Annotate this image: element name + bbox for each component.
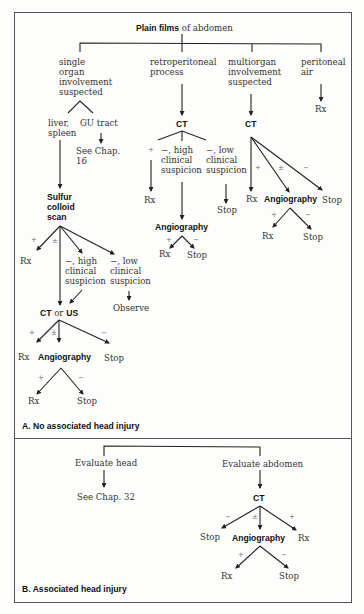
node-evaluate-abdomen: Evaluate abdomen: [222, 459, 303, 469]
line: suspected: [228, 77, 281, 87]
node-high-suspicion: −, high clinical suspicion: [161, 145, 202, 175]
node-stop: Stop: [77, 396, 97, 406]
panel-b-caption: B. Associated head injury: [22, 584, 127, 594]
node-stop: Stop: [104, 353, 124, 363]
line: clinical: [206, 155, 247, 165]
sign-minus: −: [78, 374, 84, 382]
connector-lines: [0, 0, 364, 614]
line: scan: [47, 212, 75, 222]
node-sulfur-colloid-scan: Sulfur colloid scan: [47, 192, 75, 222]
node-rx: Rx: [20, 256, 31, 266]
node-rx: Rx: [298, 533, 309, 543]
node-ct: CT: [245, 119, 256, 129]
sign-minus: −: [303, 164, 309, 172]
node-ct: CT: [253, 493, 264, 503]
us-label: US: [66, 308, 78, 318]
line: suspicion: [206, 165, 247, 175]
line: −, high: [65, 256, 106, 266]
node-ct: CT: [176, 119, 187, 129]
node-stop: Stop: [217, 205, 237, 215]
node-liver-spleen: liver, spleen: [48, 118, 76, 138]
sign-plus: +: [238, 551, 244, 559]
line: suspicion: [110, 276, 151, 286]
line: Sulfur: [47, 192, 75, 202]
line: See Chap.: [76, 146, 120, 156]
line: clinical: [161, 155, 202, 165]
root-node: Plain films of abdomen: [136, 23, 233, 33]
line: retroperitoneal: [150, 57, 217, 67]
line: −, low: [110, 256, 151, 266]
node-stop: Stop: [187, 250, 207, 260]
node-retroperitoneal: retroperitoneal process: [150, 57, 217, 77]
node-observe: Observe: [113, 303, 149, 313]
sign-minus: −: [281, 551, 287, 559]
line: suspicion: [161, 165, 202, 175]
line: −, high: [161, 145, 202, 155]
node-rx: Rx: [159, 249, 170, 259]
sign-plus-minus: ±: [278, 164, 284, 172]
sign-plus: +: [255, 164, 261, 172]
node-evaluate-head: Evaluate head: [75, 458, 137, 468]
line: air: [301, 67, 346, 77]
line: 16: [76, 156, 120, 166]
line: −, low: [206, 145, 247, 155]
node-rx: Rx: [144, 195, 155, 205]
node-stop: Stop: [279, 571, 299, 581]
node-rx: Rx: [28, 396, 39, 406]
node-angiography: Angiography: [38, 352, 91, 362]
line: clinical: [65, 266, 106, 276]
sign-minus: −: [101, 329, 107, 337]
sign-plus: +: [38, 374, 44, 382]
node-see-chap-16: See Chap. 16: [76, 146, 120, 166]
ct-label: CT: [40, 308, 51, 318]
abdominal-trauma-flowchart: Plain films of abdomen single organ invo…: [0, 0, 364, 614]
sign-plus-minus: ±: [252, 513, 258, 521]
node-stop: Stop: [200, 532, 220, 542]
sign-plus: +: [148, 146, 154, 154]
sign-plus: +: [289, 513, 295, 521]
line: process: [150, 67, 217, 77]
node-stop: Stop: [322, 195, 342, 205]
sign-minus: −: [193, 236, 199, 244]
node-rx: Rx: [221, 571, 232, 581]
node-gu-tract: GU tract: [80, 118, 118, 128]
line: spleen: [48, 128, 76, 138]
line: peritoneal: [301, 57, 346, 67]
line: clinical: [110, 266, 151, 276]
node-rx: Rx: [262, 231, 273, 241]
node-multiorgan: multiorgan involvement suspected: [228, 57, 281, 87]
line: single: [59, 57, 112, 67]
node-rx: Rx: [18, 352, 29, 362]
sign-plus-minus: ±: [51, 329, 57, 337]
root-rest: of abdomen: [179, 23, 233, 33]
line: suspected: [59, 87, 112, 97]
node-high-suspicion: −, high clinical suspicion: [65, 256, 106, 286]
node-peritoneal-air: peritoneal air: [301, 57, 346, 77]
line: involvement: [228, 67, 281, 77]
sign-plus: +: [166, 236, 172, 244]
panel-a-caption: A. No associated head injury: [22, 421, 139, 431]
line: organ: [59, 67, 112, 77]
node-single-organ: single organ involvement suspected: [59, 57, 112, 97]
line: liver,: [48, 118, 76, 128]
node-rx: Rx: [315, 104, 326, 114]
node-see-chap-32: See Chap. 32: [77, 492, 135, 502]
or-label: or: [51, 308, 66, 318]
node-rx: Rx: [246, 194, 257, 204]
line: colloid: [47, 202, 75, 212]
node-angiography: Angiography: [155, 222, 208, 232]
node-low-suspicion: −, low clinical suspicion: [206, 145, 247, 175]
root-bold: Plain films: [136, 23, 179, 33]
sign-minus: −: [305, 211, 311, 219]
node-ct-or-us: CT or US: [40, 308, 78, 318]
line: involvement: [59, 77, 112, 87]
line: multiorgan: [228, 57, 281, 67]
node-angiography: Angiography: [264, 194, 317, 204]
sign-plus: +: [271, 211, 277, 219]
sign-minus: −: [225, 513, 231, 521]
node-low-suspicion: −, low clinical suspicion: [110, 256, 151, 286]
node-angiography: Angiography: [232, 533, 285, 543]
sign-plus: +: [31, 236, 37, 244]
node-stop: Stop: [303, 232, 323, 242]
sign-plus-minus: ±: [52, 237, 58, 245]
